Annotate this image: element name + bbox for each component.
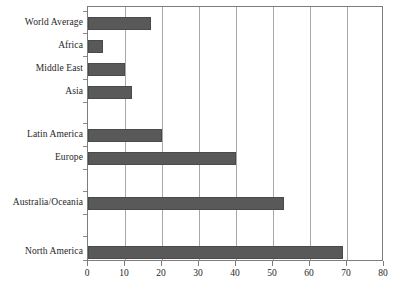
plot-area: [87, 6, 383, 261]
category-axis-ticks: [0, 6, 87, 261]
x-tick-80: [383, 261, 384, 266]
bar-asia: [88, 86, 132, 99]
x-tick-70: [346, 261, 347, 266]
x-tick-label-80: 80: [378, 267, 388, 279]
x-tick-label-30: 30: [193, 267, 203, 279]
gridline-30: [199, 7, 200, 260]
x-tick-50: [272, 261, 273, 266]
horizontal-bar-chart: World Average Africa Middle East Asia La…: [0, 0, 397, 293]
bar-fill: [88, 40, 103, 53]
x-tick-label-20: 20: [156, 267, 166, 279]
bar-fill: [88, 246, 343, 259]
bar-fill: [88, 86, 132, 99]
bar-africa: [88, 40, 103, 53]
x-tick-20: [161, 261, 162, 266]
gridline-60: [310, 7, 311, 260]
x-tick-60: [309, 261, 310, 266]
bar-middle-east: [88, 63, 125, 76]
x-tick-40: [235, 261, 236, 266]
bar-fill: [88, 63, 125, 76]
x-tick-10: [124, 261, 125, 266]
x-tick-label-40: 40: [230, 267, 240, 279]
x-tick-label-60: 60: [304, 267, 314, 279]
bar-fill: [88, 129, 162, 142]
bar-north-america: [88, 246, 343, 259]
bar-fill: [88, 197, 284, 210]
bar-latin-america: [88, 129, 162, 142]
x-tick-label-10: 10: [119, 267, 129, 279]
bar-fill: [88, 17, 151, 30]
bar-fill: [88, 152, 236, 165]
x-tick-label-50: 50: [267, 267, 277, 279]
bar-world-average: [88, 17, 151, 30]
gridline-50: [273, 7, 274, 260]
gridline-70: [347, 7, 348, 260]
gridline-20: [162, 7, 163, 260]
bar-europe: [88, 152, 236, 165]
x-tick-label-0: 0: [85, 267, 90, 279]
value-axis: 01020304050607080: [87, 261, 383, 291]
gridline-40: [236, 7, 237, 260]
bar-australia-oceania: [88, 197, 284, 210]
x-tick-0: [87, 261, 88, 266]
x-tick-30: [198, 261, 199, 266]
x-tick-label-70: 70: [341, 267, 351, 279]
